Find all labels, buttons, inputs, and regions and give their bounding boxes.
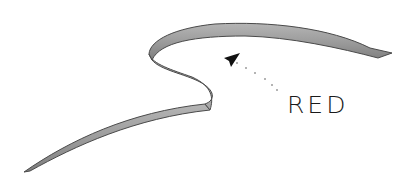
ribbon-lower-segment: [24, 104, 210, 172]
ribbon-upper-segment: [149, 23, 392, 60]
ribbon-fold-segment: [149, 54, 212, 110]
dotted-leader-line: [236, 62, 278, 91]
pointer-arrowhead-icon: [224, 53, 240, 67]
annotation-label: RED: [287, 93, 348, 117]
